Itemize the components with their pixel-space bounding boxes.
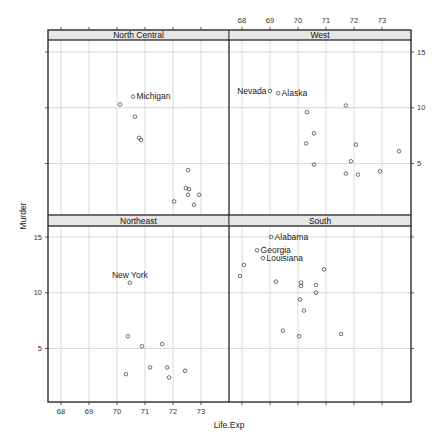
data-point (397, 149, 401, 153)
data-point (354, 143, 358, 147)
data-point (242, 263, 246, 267)
data-point (139, 138, 143, 142)
data-point (131, 95, 135, 99)
data-point (378, 170, 382, 174)
y-tick-label: 10 (34, 288, 42, 297)
data-point (165, 366, 169, 370)
panel-strip-title: North Central (113, 30, 164, 40)
data-point (356, 173, 360, 177)
data-point (186, 168, 190, 172)
data-point (349, 159, 353, 163)
data-point (322, 268, 326, 272)
y-tick-label: 5 (38, 344, 42, 353)
data-point (192, 203, 196, 207)
data-point (344, 172, 348, 176)
x-tick-label: 70 (113, 407, 121, 416)
x-tick-label-top: 71 (322, 16, 330, 25)
data-point (197, 193, 201, 197)
y-tick-label-right: 15 (417, 48, 425, 57)
data-points (118, 89, 401, 379)
panel-frame (229, 226, 411, 402)
point-labels: MichiganNevadaAlaskaNew YorkAlabamaGeorg… (112, 86, 309, 280)
x-tick-label-top: 73 (378, 16, 386, 25)
panel-strips: North CentralWestNortheastSouth (48, 30, 411, 226)
data-point (274, 280, 278, 284)
x-tick-label-top: 72 (350, 16, 358, 25)
point-label: Alabama (275, 232, 309, 242)
data-point (298, 298, 302, 302)
panel-strip-title: West (310, 30, 330, 40)
x-tick-label-top: 69 (266, 16, 274, 25)
x-tick-label-top: 70 (294, 16, 302, 25)
y-tick-label-right: 10 (417, 103, 425, 112)
data-point (276, 91, 280, 95)
y-tick-label-right: 5 (417, 159, 421, 168)
data-point (160, 342, 164, 346)
x-tick-label-top: 68 (238, 16, 246, 25)
data-point (314, 283, 318, 287)
data-point (124, 372, 128, 376)
x-tick-label: 68 (57, 407, 65, 416)
data-point (339, 332, 343, 336)
x-tick-label: 69 (85, 407, 93, 416)
data-point (167, 376, 171, 380)
panel-frame (229, 40, 411, 215)
data-point (281, 329, 285, 333)
data-point (261, 256, 265, 260)
data-point (126, 334, 130, 338)
data-point (238, 274, 242, 278)
data-point (118, 103, 122, 107)
data-point (255, 249, 259, 253)
point-label: New York (112, 270, 149, 280)
data-point (302, 309, 306, 313)
data-point (183, 369, 187, 373)
panel-strip-title: South (309, 216, 331, 226)
data-point (304, 142, 308, 146)
data-point (305, 110, 309, 114)
data-point (140, 344, 144, 348)
x-tick-label: 73 (197, 407, 205, 416)
point-label: Nevada (237, 86, 267, 96)
x-tick-label: 72 (169, 407, 177, 416)
panel-strip-title: Northeast (120, 216, 157, 226)
point-label: Alaska (282, 88, 308, 98)
data-point (133, 115, 137, 119)
data-point (128, 281, 132, 285)
y-tick-label: 15 (34, 233, 42, 242)
data-point (312, 132, 316, 136)
trellis-scatter-chart: North CentralWestNortheastSouth 68697071… (0, 0, 443, 447)
panel-frame (48, 226, 229, 402)
point-label: Michigan (136, 91, 170, 101)
data-point (137, 136, 141, 140)
data-point (344, 104, 348, 108)
data-point (186, 193, 190, 197)
y-axis-title: Murder (18, 202, 28, 229)
x-tick-label: 71 (141, 407, 149, 416)
data-point (148, 366, 152, 370)
panel-frame (48, 40, 229, 215)
point-label: Louisiana (267, 253, 304, 263)
x-axis-title: Life.Exp (214, 420, 245, 430)
